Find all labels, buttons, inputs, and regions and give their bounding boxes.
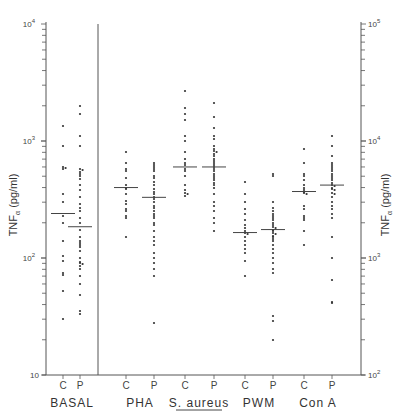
data-point bbox=[153, 230, 155, 232]
data-point bbox=[125, 193, 127, 195]
data-point bbox=[62, 260, 64, 262]
data-point bbox=[213, 160, 215, 162]
data-point bbox=[125, 208, 127, 210]
data-point bbox=[331, 257, 333, 259]
data-point bbox=[272, 315, 274, 317]
data-point bbox=[331, 175, 333, 177]
data-point bbox=[125, 217, 127, 219]
data-point bbox=[79, 203, 81, 205]
data-point bbox=[79, 175, 81, 177]
data-point bbox=[213, 222, 215, 224]
data-point bbox=[184, 164, 186, 166]
data-point bbox=[331, 208, 333, 210]
category-label: C bbox=[122, 380, 129, 391]
data-point bbox=[272, 248, 274, 250]
data-point bbox=[303, 205, 305, 207]
data-point bbox=[303, 219, 305, 221]
data-point bbox=[184, 140, 186, 142]
data-point bbox=[331, 302, 333, 304]
data-point bbox=[331, 279, 333, 281]
data-point bbox=[79, 275, 81, 277]
data-point bbox=[79, 210, 81, 212]
data-point bbox=[303, 179, 305, 181]
data-points bbox=[62, 90, 336, 341]
data-point bbox=[65, 167, 67, 169]
data-point bbox=[272, 175, 274, 177]
data-point bbox=[184, 135, 186, 137]
category-label: C bbox=[181, 380, 188, 391]
data-point bbox=[216, 151, 218, 153]
data-point bbox=[153, 236, 155, 238]
data-point bbox=[79, 171, 81, 173]
data-point bbox=[213, 155, 215, 157]
data-point bbox=[184, 119, 186, 121]
data-point bbox=[79, 178, 81, 180]
data-point bbox=[272, 257, 274, 259]
data-point bbox=[331, 135, 333, 137]
data-point bbox=[213, 162, 215, 164]
data-point bbox=[213, 230, 215, 232]
data-point bbox=[79, 196, 81, 198]
data-point bbox=[82, 169, 84, 171]
data-point bbox=[272, 210, 274, 212]
data-point bbox=[303, 162, 305, 164]
data-point bbox=[153, 181, 155, 183]
data-point bbox=[272, 262, 274, 264]
data-point bbox=[244, 227, 246, 229]
data-point bbox=[153, 217, 155, 219]
right-tick-label: 105 bbox=[368, 18, 381, 29]
data-point bbox=[153, 175, 155, 177]
data-point bbox=[331, 162, 333, 164]
data-point bbox=[303, 184, 305, 186]
data-point bbox=[79, 207, 81, 209]
data-point bbox=[213, 177, 215, 179]
data-point bbox=[79, 268, 81, 270]
data-point bbox=[213, 175, 215, 177]
group-label: S. aureus bbox=[169, 396, 229, 410]
data-point bbox=[62, 215, 64, 217]
data-point bbox=[153, 164, 155, 166]
right-tick-label: 103 bbox=[368, 252, 381, 263]
data-point bbox=[303, 215, 305, 217]
data-point bbox=[79, 217, 81, 219]
data-point bbox=[153, 162, 155, 164]
data-point bbox=[244, 193, 246, 195]
data-point bbox=[213, 153, 215, 155]
data-point bbox=[153, 207, 155, 209]
data-point bbox=[79, 236, 81, 238]
data-point bbox=[79, 244, 81, 246]
data-point bbox=[153, 322, 155, 324]
data-point bbox=[125, 177, 127, 179]
data-point bbox=[125, 170, 127, 172]
data-point bbox=[153, 268, 155, 270]
data-point bbox=[184, 162, 186, 164]
data-point bbox=[334, 193, 336, 195]
data-point bbox=[272, 173, 274, 175]
data-point bbox=[303, 148, 305, 150]
data-point bbox=[62, 168, 64, 170]
data-point bbox=[153, 210, 155, 212]
left-tick-label: 104 bbox=[23, 18, 36, 29]
data-point bbox=[244, 248, 246, 250]
data-point bbox=[79, 265, 81, 267]
data-point bbox=[79, 262, 81, 264]
data-point bbox=[79, 184, 81, 186]
data-point bbox=[213, 135, 215, 137]
data-point bbox=[79, 313, 81, 315]
data-point bbox=[331, 164, 333, 166]
data-point bbox=[125, 215, 127, 217]
data-point bbox=[153, 244, 155, 246]
data-point bbox=[213, 182, 215, 184]
data-point bbox=[79, 222, 81, 224]
y-axis-title-right: TNFα (pg/ml) bbox=[379, 174, 393, 237]
data-point bbox=[303, 192, 305, 194]
data-point bbox=[213, 116, 215, 118]
median-bars bbox=[51, 167, 344, 233]
data-point bbox=[79, 189, 81, 191]
data-point bbox=[244, 252, 246, 254]
right-tick-label: 104 bbox=[368, 135, 381, 146]
group-label: Con A bbox=[299, 396, 337, 410]
data-point bbox=[303, 187, 305, 189]
data-point bbox=[244, 240, 246, 242]
data-point bbox=[153, 198, 155, 200]
